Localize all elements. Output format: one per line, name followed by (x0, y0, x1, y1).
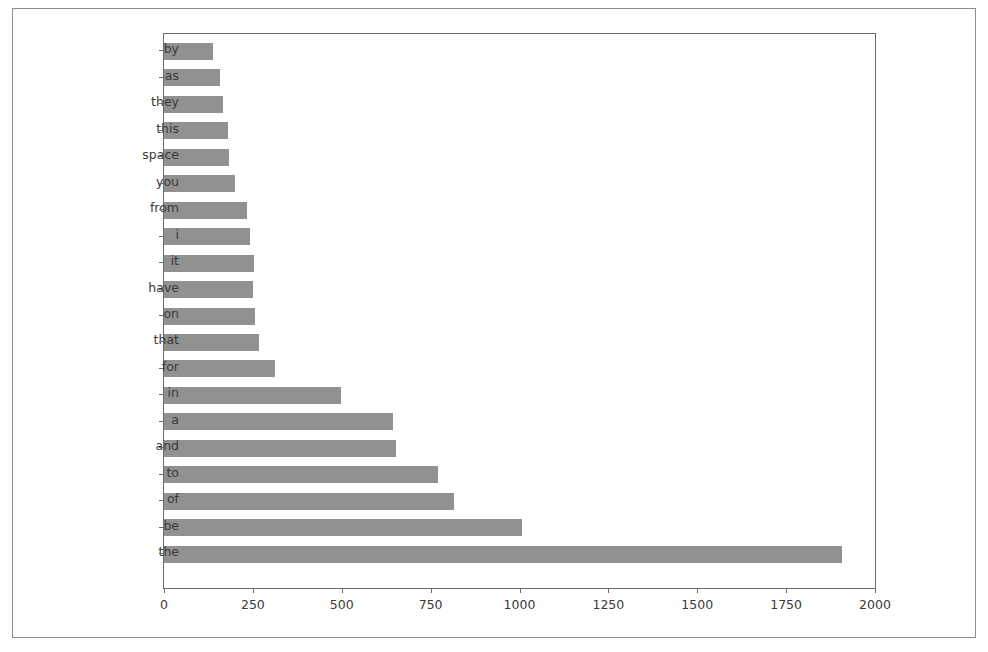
y-tick-label-the: the (158, 546, 179, 559)
y-tick-label-that: that (154, 334, 179, 347)
y-tick-label-in: in (168, 387, 179, 400)
x-tick-label-1000: 1000 (504, 599, 536, 612)
y-tick-label-a: a (171, 414, 179, 427)
bar-rect-the (164, 546, 842, 563)
y-tick-label-and: and (155, 440, 179, 453)
x-tick-mark (697, 589, 698, 593)
y-tick-label-to: to (166, 467, 179, 480)
y-tick-label-on: on (163, 308, 179, 321)
y-tick-label-i: i (176, 229, 179, 242)
x-tick-label-1250: 1250 (592, 599, 624, 612)
x-tick-label-250: 250 (241, 599, 265, 612)
y-tick-label-have: have (148, 282, 179, 295)
x-tick-label-2000: 2000 (859, 599, 891, 612)
y-tick-label-from: from (150, 202, 179, 215)
x-tick-mark (875, 589, 876, 593)
y-tick-label-as: as (165, 70, 179, 83)
bars-container (164, 34, 875, 588)
x-tick-label-0: 0 (160, 599, 168, 612)
y-tick-label-they: they (151, 96, 179, 109)
x-tick-label-750: 750 (419, 599, 443, 612)
bar-rect-be (164, 519, 522, 536)
x-tick-mark (786, 589, 787, 593)
x-tick-mark (164, 589, 165, 593)
figure-frame: byastheythisspaceyoufromiithaveonthatfor… (12, 8, 976, 638)
y-tick-label-you: you (156, 176, 179, 189)
bar-rect-a (164, 413, 393, 430)
screenshot-root: byastheythisspaceyoufromiithaveonthatfor… (0, 0, 988, 652)
bar-rect-of (164, 493, 454, 510)
y-tick-label-of: of (167, 493, 179, 506)
bar-rect-in (164, 387, 341, 404)
x-tick-mark (520, 589, 521, 593)
x-tick-mark (342, 589, 343, 593)
y-tick-label-for: for (162, 361, 179, 374)
y-tick-label-it: it (171, 255, 179, 268)
x-tick-label-1750: 1750 (770, 599, 802, 612)
x-tick-mark (253, 589, 254, 593)
y-tick-label-this: this (156, 123, 179, 136)
bar-rect-for (164, 360, 275, 377)
bar-rect-to (164, 466, 438, 483)
x-tick-label-1500: 1500 (681, 599, 713, 612)
x-tick-mark (608, 589, 609, 593)
y-tick-label-space: space (142, 149, 179, 162)
y-tick-label-be: be (163, 520, 179, 533)
bar-rect-and (164, 440, 396, 457)
x-tick-label-500: 500 (330, 599, 354, 612)
x-tick-mark (431, 589, 432, 593)
y-tick-label-by: by (164, 43, 179, 56)
chart-axes-area (163, 33, 876, 589)
